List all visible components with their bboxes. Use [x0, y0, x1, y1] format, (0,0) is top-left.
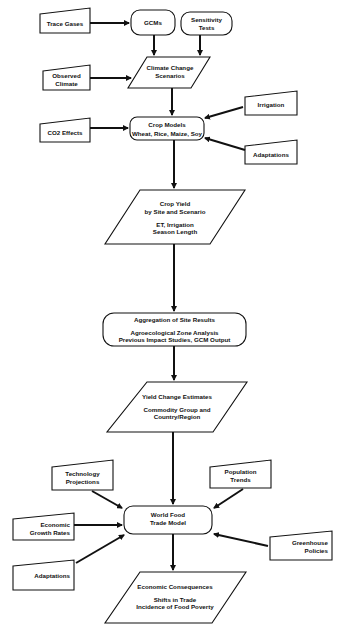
- irrigation-label: Irrigation: [245, 95, 297, 115]
- greenhouse-policies-label: GreenhousePolicies: [270, 536, 328, 558]
- technology-projections-label: TechnologyProjections: [52, 466, 113, 490]
- crop-yield-label: Crop Yieldby Site and ScenarioET, Irriga…: [125, 196, 225, 240]
- trace-gases-label: Trace Gases: [40, 14, 90, 33]
- observed-climate-label: ObservedClimate: [43, 70, 90, 90]
- adaptations-crop-label: Adaptations: [245, 145, 297, 164]
- yield-change-estimates-label: Yield Change EstimatesCommodity Group an…: [127, 388, 227, 426]
- gcms-label: GCMs: [131, 10, 175, 35]
- co2-effects-label: CO2 Effects: [40, 123, 90, 142]
- crop-models-label: Crop ModelsWheat, Rice, Maize, Soy: [130, 117, 204, 140]
- sensitivity-tests-label: SensitivityTests: [181, 12, 232, 35]
- world-food-trade-model-label: World FoodTrade Model: [124, 506, 212, 532]
- adaptations-trade-label: Adaptations: [13, 565, 70, 587]
- climate-change-scenarios-label: Climate ChangeScenarios: [135, 60, 205, 84]
- economic-growth-rates-label: EconomicGrowth Rates: [13, 518, 70, 540]
- aggregation-label: Aggregation of Site ResultsAgroecologica…: [103, 315, 246, 345]
- population-trends-label: PopulationTrends: [210, 465, 271, 487]
- economic-consequences-label: Economic ConsequencesShifts in TradeInci…: [125, 576, 225, 618]
